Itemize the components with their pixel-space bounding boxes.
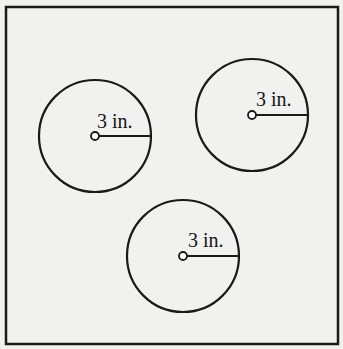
circle-bottom-group: 3 in. [127,200,239,312]
radius-label-bottom: 3 in. [188,229,224,251]
radius-label-left: 3 in. [97,110,133,132]
center-point-left [91,132,99,140]
radius-label-right: 3 in. [256,88,292,110]
circle-left-group: 3 in. [39,80,151,192]
diagram-svg: 3 in. 3 in. 3 in. [0,0,343,349]
center-point-right [248,111,256,119]
center-point-bottom [179,252,187,260]
diagram-canvas: 3 in. 3 in. 3 in. [0,0,343,349]
circle-right-group: 3 in. [196,59,308,171]
